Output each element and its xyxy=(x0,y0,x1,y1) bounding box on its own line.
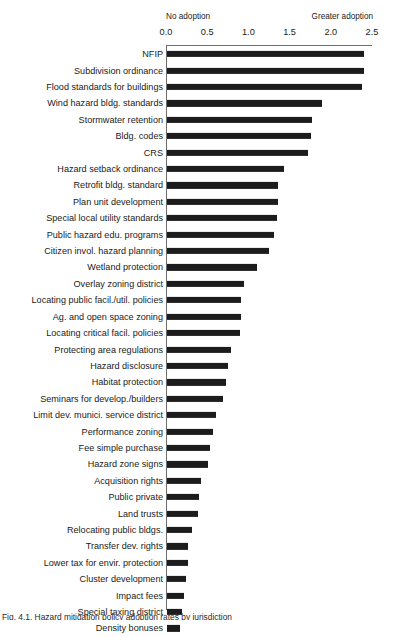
category-label: Citizen invol. hazard planning xyxy=(44,246,163,256)
category-label: Transfer dev. rights xyxy=(86,541,163,551)
bar xyxy=(167,428,213,434)
bar xyxy=(167,346,231,352)
category-label: Public private xyxy=(108,492,163,502)
bar xyxy=(167,560,188,566)
x-tick-label: 2.5 xyxy=(366,26,379,39)
bar-row: Acquisition rights xyxy=(0,473,399,489)
bar-row: Stormwater retention xyxy=(0,112,399,128)
category-label: Performance zoning xyxy=(82,427,163,437)
bar-row: Locating critical facil. policies xyxy=(0,325,399,341)
bar-row: Ag. and open space zoning xyxy=(0,309,399,325)
bar-track xyxy=(167,346,373,352)
bar-track xyxy=(167,593,373,599)
bar xyxy=(167,396,223,402)
bar-track xyxy=(167,396,373,402)
bar-row: Public private xyxy=(0,489,399,505)
bar-track xyxy=(167,428,373,434)
bar xyxy=(167,543,188,549)
category-label: Seminars for develop./builders xyxy=(40,394,163,404)
category-label: Habitat protection xyxy=(92,377,163,387)
bar-row: Special local utility standards xyxy=(0,210,399,226)
bar-track xyxy=(167,281,373,287)
category-label: Wetland protection xyxy=(87,262,163,272)
figure-caption-clipped: Fig. 4.1. Hazard mitigation policy adopt… xyxy=(0,612,399,620)
bar-row: Lower tax for envir. protection xyxy=(0,555,399,571)
bar xyxy=(167,412,216,418)
category-label: Ag. and open space zoning xyxy=(53,312,163,322)
category-label: Impact fees xyxy=(116,591,163,601)
category-label: Public hazard edu. programs xyxy=(47,230,163,240)
bar xyxy=(167,182,278,188)
bar-row: Habitat protection xyxy=(0,374,399,390)
bar xyxy=(167,281,244,287)
bar-track xyxy=(167,51,373,57)
bar-row: Wetland protection xyxy=(0,259,399,275)
bar xyxy=(167,68,364,74)
bar-track xyxy=(167,166,373,172)
bar-row: Bldg. codes xyxy=(0,128,399,144)
category-label: Density bonuses xyxy=(96,623,163,633)
category-label: Overlay zoning district xyxy=(74,279,163,289)
bar xyxy=(167,363,228,369)
bar xyxy=(167,51,364,57)
bar xyxy=(167,494,199,500)
bar-row: Hazard disclosure xyxy=(0,358,399,374)
bar xyxy=(167,330,240,336)
bar-row: Impact fees xyxy=(0,587,399,603)
category-label: Lower tax for envir. protection xyxy=(44,558,163,568)
bar-row: Relocating public bldgs. xyxy=(0,522,399,538)
bar-track xyxy=(167,543,373,549)
bar-row: Overlay zoning district xyxy=(0,276,399,292)
bar xyxy=(167,379,226,385)
bar-row: Seminars for develop./builders xyxy=(0,391,399,407)
bar xyxy=(167,150,308,156)
x-tick-label: 1.0 xyxy=(242,26,255,39)
bar-track xyxy=(167,412,373,418)
bar xyxy=(167,264,257,270)
bar xyxy=(167,297,241,303)
bar-track xyxy=(167,297,373,303)
bar-track xyxy=(167,461,373,467)
bar-rows: NFIPSubdivision ordinanceFlood standards… xyxy=(0,46,399,637)
bar-track xyxy=(167,625,373,631)
category-label: Wind hazard bldg. standards xyxy=(47,98,163,108)
category-label: Hazard setback ordinance xyxy=(57,164,163,174)
bar xyxy=(167,199,278,205)
bar xyxy=(167,461,208,467)
bar-row: Subdivision ordinance xyxy=(0,62,399,78)
bar-track xyxy=(167,330,373,336)
bar xyxy=(167,576,186,582)
category-label: Locating critical facil. policies xyxy=(46,328,163,338)
bar xyxy=(167,117,312,123)
category-label: Cluster development xyxy=(80,574,163,584)
x-tick-label: 2.0 xyxy=(324,26,337,39)
no-adoption-annotation: No adoption xyxy=(166,11,210,23)
bar xyxy=(167,625,180,631)
category-label: Hazard disclosure xyxy=(90,361,163,371)
category-label: Stormwater retention xyxy=(79,115,163,125)
bar-row: Performance zoning xyxy=(0,423,399,439)
bar xyxy=(167,133,311,139)
category-label: Relocating public bldgs. xyxy=(67,525,163,535)
bar-track xyxy=(167,494,373,500)
bar-row: Limit dev. munici. service district xyxy=(0,407,399,423)
bar xyxy=(167,248,269,254)
bar xyxy=(167,100,322,106)
category-label: Limit dev. munici. service district xyxy=(33,410,163,420)
bar-row: Fee simple purchase xyxy=(0,440,399,456)
bar-row: Plan unit development xyxy=(0,194,399,210)
bar-track xyxy=(167,363,373,369)
bar-row: Protecting area regulations xyxy=(0,341,399,357)
bar xyxy=(167,510,198,516)
category-label: NFIP xyxy=(142,49,163,59)
category-label: Special local utility standards xyxy=(46,213,163,223)
bar-track xyxy=(167,314,373,320)
bar-track xyxy=(167,379,373,385)
bar-row: NFIP xyxy=(0,46,399,62)
bar-row: Cluster development xyxy=(0,571,399,587)
bar-track xyxy=(167,232,373,238)
bar-row: Hazard zone signs xyxy=(0,456,399,472)
bar xyxy=(167,84,362,90)
bar-track xyxy=(167,215,373,221)
